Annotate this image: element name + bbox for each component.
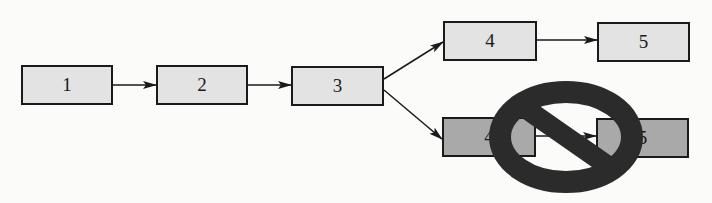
flow-diagram: 1 2 3 4 5 4 5: [0, 0, 712, 203]
prohibition-layer: [0, 0, 712, 203]
prohibition-sign-icon: [500, 92, 632, 182]
